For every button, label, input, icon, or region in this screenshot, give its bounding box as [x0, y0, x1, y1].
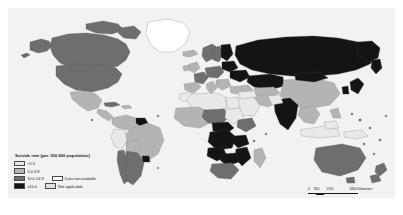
legend-extra-not-applicable[interactable]: Not applicable — [45, 183, 83, 189]
legend-title: Suicide rate (per 100 000 population) — [15, 153, 184, 159]
legend-row-class-3[interactable]: 10.0-14.9 Data not available — [14, 175, 184, 182]
legend-swatch-data-not-available — [52, 176, 63, 182]
island-dot — [385, 115, 387, 117]
region-tasmania — [346, 177, 355, 183]
world-map-figure: .c0{fill:#e9e9e9;stroke:#8a8a8a;stroke-w… — [0, 0, 403, 215]
scale-tick-2: 1700 — [326, 187, 333, 192]
island-dot — [91, 119, 93, 121]
legend-label-gte15: ≥15.0 — [27, 184, 37, 189]
region-ireland — [183, 65, 190, 71]
legend-label-not-applicable: Not applicable — [58, 184, 83, 189]
legend-label-10-14: 10.0-14.9 — [27, 176, 43, 181]
legend-swatch-5-9 — [14, 168, 25, 174]
scale-tick-3: 3400 Kilometers — [349, 187, 372, 192]
island-dot — [373, 153, 375, 155]
scale-segment-4 — [341, 193, 358, 195]
scale-segment-1 — [308, 193, 316, 195]
island-dot — [253, 140, 255, 142]
scale-segment-2 — [316, 193, 324, 195]
legend-row-class-4[interactable]: ≥15.0 Not applicable — [14, 183, 184, 190]
island-dot — [351, 113, 353, 115]
island-dot — [369, 127, 371, 129]
map-scale-bar: 0 850 1700 3400 Kilometers — [308, 187, 388, 194]
scale-tick-1: 850 — [314, 187, 319, 192]
legend-swatch-not-applicable — [45, 183, 56, 189]
map-panel: .c0{fill:#e9e9e9;stroke:#8a8a8a;stroke-w… — [8, 8, 395, 198]
legend-rows: <5.0 5.0-9.9 10.0-14.9 Data not availabl… — [14, 160, 184, 190]
legend-row-class-2[interactable]: 5.0-9.9 — [14, 168, 184, 175]
scale-tick-labels: 0 850 1700 3400 Kilometers — [308, 187, 388, 192]
island-dot — [363, 143, 365, 145]
scale-bar-segments — [308, 193, 388, 195]
region-russian-federation — [235, 36, 376, 76]
island-dot — [359, 119, 361, 121]
legend-extra-data-not-available[interactable]: Data not available — [52, 176, 96, 182]
legend-label-lt5: <5.0 — [27, 161, 35, 166]
island-dot — [379, 139, 381, 141]
legend-label-5-9: 5.0-9.9 — [27, 169, 39, 174]
island-dot — [265, 133, 267, 135]
region-korea — [342, 86, 349, 94]
scale-segment-3 — [324, 193, 341, 195]
legend-label-data-not-available: Data not available — [65, 176, 96, 181]
map-legend: Suicide rate (per 100 000 population) <5… — [14, 153, 184, 190]
legend-row-class-1[interactable]: <5.0 — [14, 160, 184, 167]
legend-swatch-lt5 — [14, 161, 25, 167]
legend-swatch-10-14 — [14, 176, 25, 182]
legend-swatch-gte15 — [14, 183, 25, 189]
island-dot — [157, 115, 159, 117]
